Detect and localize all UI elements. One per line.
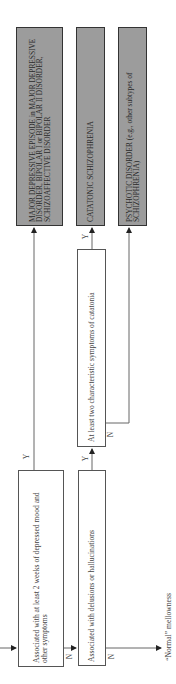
edge-label-q1-yes: Y [22, 454, 31, 459]
outcome-text: CATATONIC SCHIZOPHRENIA [87, 32, 94, 222]
edge-label-q3-no: N [106, 432, 115, 437]
terminal-text: “Normal” mellowness [165, 593, 173, 661]
outcome-catatonic-schizophrenia: CATATONIC SCHIZOPHRENIA [76, 27, 105, 226]
outcome-major-depressive-episode: MAJOR DEPRESSIVE EPISODE in MAJOR DEPRES… [16, 27, 63, 226]
edge-label-q3-yes: Y [81, 234, 90, 239]
outcome-text: PSYCHOTIC DISORDER (e.g., other subtypes… [125, 32, 140, 222]
edge-label-q2-no: N [107, 654, 116, 659]
question-delusions: Associated with delusions or hallucinati… [78, 470, 106, 666]
question-text: At least two characteristic symptoms of … [88, 254, 96, 442]
question-depressed-mood: Associated with at least 2 weeks of depr… [18, 470, 64, 667]
question-catatonia: At least two characteristic symptoms of … [77, 249, 106, 447]
edge-label-q1-no: N [65, 654, 74, 659]
question-text: Associated with at least 2 weeks of depr… [33, 475, 48, 663]
edge-label-q2-yes: Y [81, 456, 90, 461]
outcome-psychotic-disorder: PSYCHOTIC DISORDER (e.g., other subtypes… [118, 27, 147, 226]
question-text: Associated with delusions or hallucinati… [88, 474, 96, 662]
outcome-text: MAJOR DEPRESSIVE EPISODE in MAJOR DEPRES… [28, 32, 50, 222]
terminal-normal-mellowness: “Normal” mellowness [162, 570, 176, 684]
